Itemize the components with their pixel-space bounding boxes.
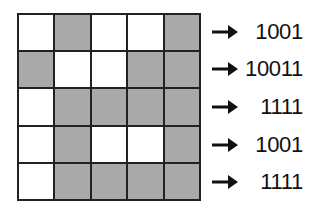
row-code-text: 1111 [260, 94, 303, 120]
grid-cell [18, 126, 54, 163]
grid-cell [91, 126, 127, 163]
grid-cell [164, 88, 200, 125]
row-code-4: 1001 [207, 126, 303, 164]
right-arrow-icon [212, 61, 238, 77]
grid-cell [127, 126, 163, 163]
row-code-text: 1001 [255, 132, 303, 158]
row-code-5: 1111 [207, 163, 303, 201]
grid-cell [164, 126, 200, 163]
grid-cell [127, 88, 163, 125]
grid-cell [18, 88, 54, 125]
grid-cell [54, 14, 90, 51]
right-arrow-icon [212, 99, 238, 115]
grid-cell [54, 51, 90, 88]
row-code-2: 10011 [207, 51, 303, 89]
row-code-text: 1001 [255, 19, 303, 45]
grid-cell [164, 163, 200, 200]
grid-cell [91, 14, 127, 51]
grid-cell [127, 163, 163, 200]
pixel-grid [17, 13, 201, 201]
right-arrow-icon [212, 174, 238, 190]
grid-cell [91, 163, 127, 200]
grid-cell [18, 163, 54, 200]
row-code-3: 1111 [207, 88, 303, 126]
grid-cell [127, 51, 163, 88]
grid-cell [18, 51, 54, 88]
grid-cell [54, 88, 90, 125]
grid-cell [18, 14, 54, 51]
grid-cell [164, 14, 200, 51]
right-arrow-icon [212, 137, 238, 153]
grid-cell [54, 126, 90, 163]
grid-cell [127, 14, 163, 51]
row-code-1: 1001 [207, 13, 303, 51]
grid-cell [91, 51, 127, 88]
row-code-text: 10011 [245, 56, 303, 82]
grid-cell [54, 163, 90, 200]
grid-cell [91, 88, 127, 125]
row-codes: 1001 10011 1111 1001 1111 [207, 13, 303, 201]
row-code-text: 1111 [260, 169, 303, 195]
grid-cell [164, 51, 200, 88]
right-arrow-icon [212, 24, 238, 40]
